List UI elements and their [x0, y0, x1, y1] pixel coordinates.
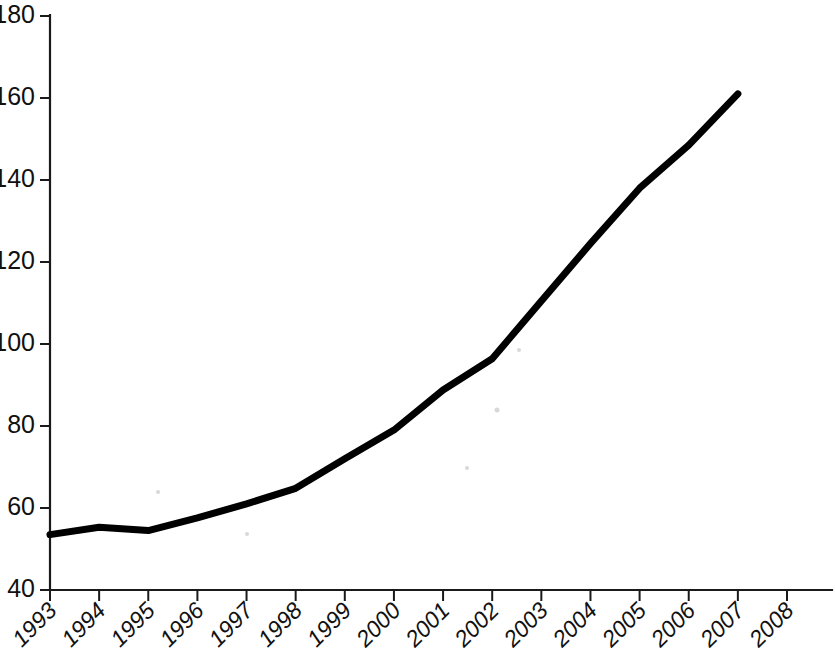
x-tick-label-2000: 2000 — [350, 597, 405, 652]
x-tick-label-1995: 1995 — [105, 597, 160, 652]
x-tick-label-1996: 1996 — [154, 597, 209, 652]
x-tick-label-2004: 2004 — [547, 597, 602, 652]
y-tick-label-60: 60 — [7, 492, 35, 520]
x-tick-label-1993: 1993 — [7, 597, 62, 652]
y-axis-ticks: 40 60 80 100 120 140 160 180 — [0, 0, 50, 602]
line-chart: 40 60 80 100 120 140 160 180 19931994199… — [0, 0, 835, 655]
x-tick-label-2007: 2007 — [694, 596, 750, 652]
x-tick-label-2006: 2006 — [645, 597, 700, 652]
x-axis-tick-labels: 1993199419951996199719981999200020012002… — [7, 596, 799, 652]
chart-canvas: 40 60 80 100 120 140 160 180 19931994199… — [0, 0, 835, 655]
x-tick-label-2005: 2005 — [596, 597, 651, 652]
axes-group — [50, 15, 832, 590]
x-tick-label-2001: 2001 — [399, 597, 454, 652]
y-tick-label-140: 140 — [0, 164, 35, 192]
data-series-line — [50, 94, 738, 535]
x-tick-label-1998: 1998 — [253, 597, 308, 652]
y-tick-label-80: 80 — [7, 410, 35, 438]
y-tick-label-160: 160 — [0, 82, 35, 110]
x-tick-label-2002: 2002 — [448, 597, 503, 652]
x-tick-label-1997: 1997 — [204, 596, 259, 651]
x-tick-label-2008: 2008 — [743, 597, 798, 652]
x-axis-ticks — [50, 590, 787, 601]
x-tick-label-1999: 1999 — [302, 597, 357, 652]
y-tick-label-180: 180 — [0, 0, 35, 28]
y-tick-label-40: 40 — [7, 574, 35, 602]
x-tick-label-2003: 2003 — [498, 597, 553, 652]
x-tick-label-1994: 1994 — [56, 597, 111, 652]
y-tick-label-120: 120 — [0, 246, 35, 274]
y-tick-label-100: 100 — [0, 328, 35, 356]
